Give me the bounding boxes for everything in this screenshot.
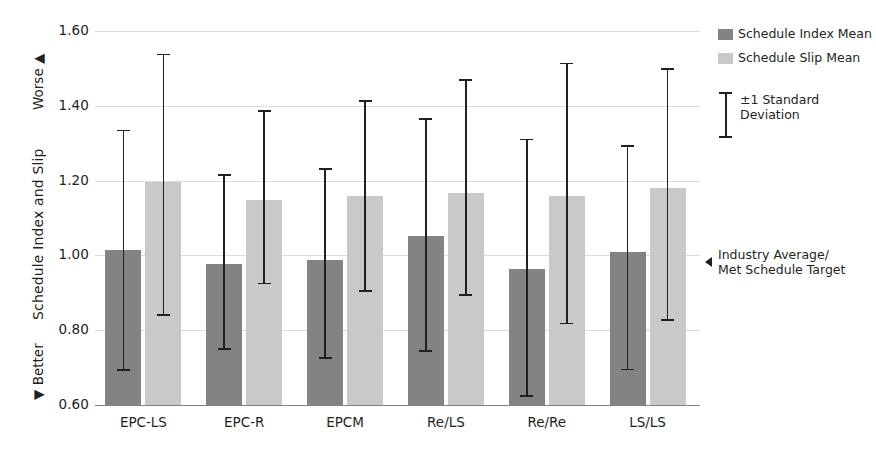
legend-swatch-dark — [718, 29, 733, 40]
y-tick-label: 1.00 — [43, 248, 89, 262]
legend-error-bar-label: ±1 Standard Deviation — [740, 92, 850, 122]
gridline — [95, 31, 700, 32]
x-tick-label-ls-ls: LS/LS — [629, 414, 666, 430]
industry-average-line2: Met Schedule Target — [718, 262, 845, 277]
error-bar-cap-upper — [117, 130, 130, 132]
error-bar-cap-lower — [520, 395, 533, 397]
error-bar-stem — [566, 64, 568, 324]
legend-error-bar-entry: ±1 Standard Deviation — [718, 92, 850, 138]
error-bar-cap-lower — [359, 290, 372, 292]
plot-area — [95, 31, 700, 405]
error-bar-cap-lower — [621, 369, 634, 371]
industry-average-label: Industry Average/ Met Schedule Target — [718, 247, 845, 277]
gridline — [95, 181, 700, 182]
gridline — [95, 106, 700, 107]
error-bar-stem — [364, 101, 366, 291]
x-axis-tick-labels: EPC-LSEPC-REPCMRe/LSRe/ReLS/LS — [95, 405, 700, 451]
y-tick-label: 0.60 — [43, 398, 89, 412]
error-bar-cap-upper — [258, 110, 271, 112]
y-tick-label: 1.60 — [43, 24, 89, 38]
legend-swatch-light — [718, 53, 733, 64]
legend-error-line1: ±1 Standard — [740, 92, 819, 107]
y-tick-label: 0.80 — [43, 323, 89, 337]
error-bar-cap-lower — [560, 323, 573, 325]
error-bar-cap-upper — [560, 63, 573, 65]
error-bar-stem — [425, 119, 427, 351]
error-bar-cap-upper — [359, 100, 372, 102]
error-bar-cap-upper — [319, 168, 332, 170]
error-bar-stem — [627, 146, 629, 369]
error-bar-icon — [718, 92, 733, 138]
error-bar-cap-upper — [621, 145, 634, 147]
legend-label: Schedule Slip Mean — [738, 50, 860, 65]
y-tick-label: 1.20 — [43, 174, 89, 188]
error-bar-cap-lower — [157, 314, 170, 316]
schedule-index-slip-chart: Worse ▲ Schedule Index and Slip ▼ Better… — [0, 0, 876, 453]
error-bar-cap-upper — [459, 79, 472, 81]
x-tick-label-epc-ls: EPC-LS — [120, 414, 167, 430]
error-bar-cap-lower — [319, 357, 332, 359]
error-bar-stem — [263, 111, 265, 284]
legend-label: Schedule Index Mean — [738, 26, 872, 41]
error-bar-stem — [667, 69, 669, 320]
error-bar-cap-upper — [218, 174, 231, 176]
left-triangle-icon — [705, 257, 712, 267]
legend-error-line2: Deviation — [740, 107, 800, 122]
x-tick-label-epcm: EPCM — [326, 414, 364, 430]
legend-item-1: Schedule Index Mean — [718, 26, 868, 41]
error-bar-stem — [223, 175, 225, 349]
x-tick-label-re-re: Re/Re — [527, 414, 566, 430]
error-bar-cap-lower — [218, 348, 231, 350]
error-bar-stem — [324, 169, 326, 358]
legend: Schedule Index MeanSchedule Slip Mean — [718, 26, 868, 74]
error-bar-stem — [163, 55, 165, 316]
error-bar-stem — [526, 139, 528, 396]
error-bar-cap-lower — [661, 319, 674, 321]
error-bar-cap-lower — [117, 369, 130, 371]
error-bar-cap-upper — [520, 139, 533, 141]
error-bar-cap-lower — [258, 283, 271, 285]
y-axis-tick-labels: 0.600.801.001.201.401.60 — [43, 31, 89, 405]
error-bar-cap-lower — [459, 294, 472, 296]
error-bar-cap-upper — [157, 54, 170, 56]
error-bar-cap-upper — [661, 68, 674, 70]
error-bar-stem — [465, 80, 467, 295]
y-tick-label: 1.40 — [43, 99, 89, 113]
industry-average-annotation: Industry Average/ Met Schedule Target — [705, 247, 845, 277]
error-bar-stem — [123, 130, 125, 370]
industry-average-line1: Industry Average/ — [718, 247, 829, 262]
x-tick-label-epc-r: EPC-R — [224, 414, 264, 430]
error-bar-cap-lower — [419, 350, 432, 352]
legend-item-2: Schedule Slip Mean — [718, 50, 868, 65]
x-tick-label-re-ls: Re/LS — [427, 414, 465, 430]
error-bar-cap-upper — [419, 118, 432, 120]
